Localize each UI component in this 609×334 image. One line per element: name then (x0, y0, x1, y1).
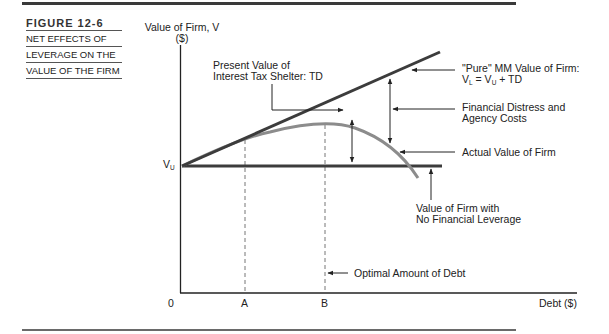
leverage-diagram (0, 0, 609, 334)
pure-mm-v: V (462, 73, 469, 85)
vu-label-main: V (163, 158, 170, 170)
tax-shelter-line2: Interest Tax Shelter: TD (213, 71, 323, 82)
x-axis-label: Debt ($) (539, 298, 577, 309)
pure-mm-formula: VL = VU + TD (462, 74, 580, 88)
no-leverage-label: Value of Firm with No Financial Leverage (416, 203, 521, 225)
x-tick-a: A (241, 298, 248, 309)
no-leverage-line2: No Financial Leverage (416, 214, 521, 225)
y-axis-label-line2: ($) (144, 33, 220, 44)
tax-shelter-leader (272, 84, 343, 110)
vu-label: VU (163, 159, 175, 173)
pure-mm-tail: + TD (496, 73, 522, 85)
y-axis-label: Value of Firm, V ($) (144, 22, 220, 44)
vu-label-sub: U (170, 164, 175, 171)
origin-label: 0 (168, 298, 174, 309)
optimal-debt-label: Optimal Amount of Debt (354, 268, 465, 279)
pure-mm-label: "Pure" MM Value of Firm: VL = VU + TD (462, 63, 580, 88)
pure-mm-eq: = V (473, 73, 492, 85)
distress-label: Financial Distress and Agency Costs (462, 102, 565, 124)
x-tick-b: B (321, 298, 328, 309)
tax-shelter-label: Present Value of Interest Tax Shelter: T… (213, 60, 323, 82)
actual-value-label: Actual Value of Firm (462, 147, 556, 158)
distress-line2: Agency Costs (462, 113, 565, 124)
